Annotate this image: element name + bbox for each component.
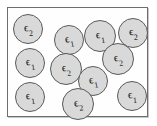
particle-label: ϵ2: [23, 22, 33, 37]
particle-circle: ϵ1: [15, 48, 45, 78]
epsilon-subscript: 1: [93, 80, 99, 90]
particle-label: ϵ2: [113, 51, 123, 66]
particle-label: ϵ1: [25, 89, 35, 104]
particle-circle: ϵ1: [54, 25, 84, 55]
epsilon-subscript: 2: [66, 69, 71, 78]
epsilon-subscript: 2: [78, 103, 84, 113]
particle-label: ϵ1: [127, 89, 137, 104]
epsilon-subscript: 2: [28, 29, 33, 38]
particle-label: ϵ2: [73, 96, 84, 111]
epsilon-subscript: 1: [30, 97, 35, 106]
particle-circle: ϵ2: [62, 88, 94, 120]
particle-circle: ϵ2: [102, 43, 134, 75]
particle-label: ϵ1: [95, 28, 105, 43]
particle-circle: ϵ1: [15, 82, 45, 112]
particle-label: ϵ2: [128, 26, 137, 41]
epsilon-subscript: 1: [132, 96, 137, 105]
particle-label: ϵ1: [88, 73, 99, 88]
particle-circle: ϵ1: [117, 81, 147, 111]
particle-label: ϵ2: [61, 61, 71, 76]
figure-root: ϵ2ϵ1ϵ1ϵ2ϵ1ϵ2ϵ2ϵ1ϵ1ϵ2ϵ1: [0, 0, 157, 126]
particle-circle: ϵ2: [13, 14, 43, 44]
epsilon-subscript: 1: [100, 36, 105, 45]
particle-label: ϵ1: [25, 55, 35, 70]
epsilon-subscript: 2: [118, 59, 123, 68]
particle-container-box: ϵ2ϵ1ϵ1ϵ2ϵ1ϵ2ϵ2ϵ1ϵ1ϵ2ϵ1: [7, 7, 148, 117]
epsilon-subscript: 1: [30, 63, 35, 72]
particle-label: ϵ1: [64, 32, 75, 47]
epsilon-subscript: 2: [133, 33, 138, 42]
epsilon-subscript: 1: [69, 39, 75, 49]
